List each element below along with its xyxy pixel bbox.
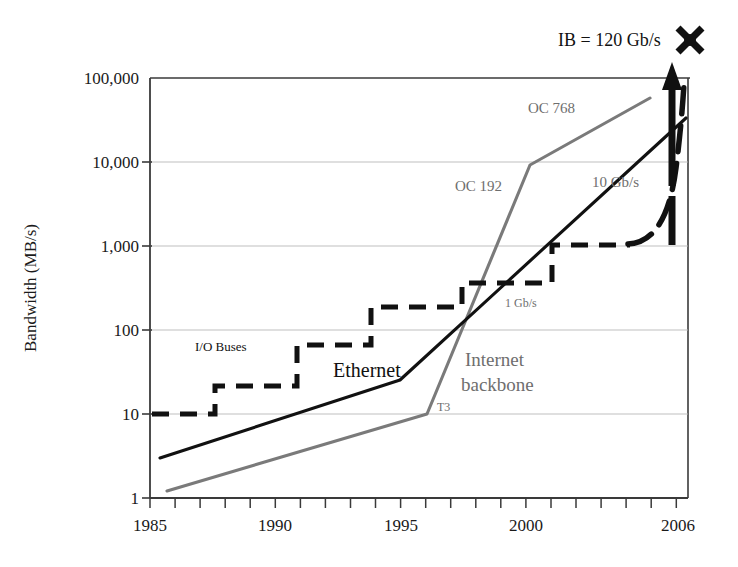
annotation-internet: Internet <box>465 349 525 370</box>
x-axis-ticks <box>150 498 676 508</box>
y-tick-label-100000: 100,000 <box>84 69 139 88</box>
y-gridlines <box>150 162 688 414</box>
x-axis-tick-labels: 1985 1990 1995 2000 2006 <box>133 516 695 535</box>
x-tick-label-1985: 1985 <box>133 516 167 535</box>
annotation-oc192: OC 192 <box>455 178 502 194</box>
series-io-buses <box>152 245 630 414</box>
y-tick-label-1: 1 <box>131 489 140 508</box>
series-ethernet <box>160 118 686 458</box>
y-tick-label-100: 100 <box>114 321 140 340</box>
bandwidth-growth-chart: 100,000 10,000 1,000 100 10 1 Bandwidth … <box>0 0 738 567</box>
annotation-ib-label: IB = 120 Gb/s <box>558 30 661 50</box>
annotation-ethernet: Ethernet <box>333 359 401 381</box>
x-tick-label-2006: 2006 <box>661 516 695 535</box>
y-tick-label-10: 10 <box>122 405 139 424</box>
annotation-backbone: backbone <box>461 374 534 395</box>
y-tick-label-10000: 10,000 <box>92 153 139 172</box>
x-tick-label-1990: 1990 <box>258 516 292 535</box>
x-tick-label-2000: 2000 <box>509 516 543 535</box>
annotation-10gbs: 10 Gb/s <box>592 174 639 190</box>
annotation-t3: T3 <box>437 400 450 414</box>
y-axis-tick-labels: 100,000 10,000 1,000 100 10 1 <box>84 69 139 508</box>
x-tick-label-1995: 1995 <box>384 516 418 535</box>
y-axis-title: Bandwidth (MB/s) <box>21 224 40 352</box>
annotation-io-buses: I/O Buses <box>195 339 247 354</box>
y-tick-label-1000: 1,000 <box>101 237 139 256</box>
annotation-1gbs: 1 Gb/s <box>505 296 537 310</box>
chart-figure: 100,000 10,000 1,000 100 10 1 Bandwidth … <box>0 0 738 567</box>
annotation-oc768: OC 768 <box>528 100 575 116</box>
ib-marker-x-icon <box>678 28 702 52</box>
